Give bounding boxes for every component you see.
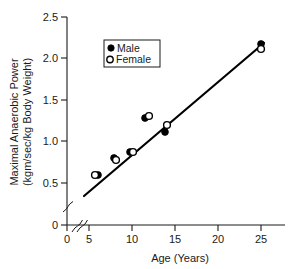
x-axis-break-icon-second bbox=[77, 220, 88, 232]
y-tick-label-1.0: 1.0 bbox=[43, 135, 58, 147]
legend-label-male: Male bbox=[117, 42, 140, 54]
x-axis-title: Age (Years) bbox=[151, 252, 209, 264]
data-point-female bbox=[258, 46, 265, 53]
x-axis-break-icon bbox=[72, 220, 83, 232]
x-tick-label-0: 0 bbox=[64, 233, 70, 245]
data-point-female bbox=[92, 172, 99, 179]
legend: Male Female bbox=[104, 40, 160, 67]
data-point-female bbox=[113, 157, 120, 164]
y-tick-label-0.5: 0.5 bbox=[43, 177, 58, 189]
legend-label-female: Female bbox=[116, 53, 151, 65]
scatter-plot: 2.5 2.0 1.5 1.0 0.5 0 0 5 10 15 20 25 bbox=[0, 0, 301, 269]
y-axis-ticks bbox=[61, 17, 67, 225]
chart-figure: 2.5 2.0 1.5 1.0 0.5 0 0 5 10 15 20 25 bbox=[0, 0, 301, 269]
x-tick-label-10: 10 bbox=[126, 233, 138, 245]
x-tick-label-5: 5 bbox=[86, 233, 92, 245]
x-tick-label-25: 25 bbox=[255, 233, 267, 245]
data-point-female bbox=[146, 113, 153, 120]
y-axis-title-line1: Maximal Anaerobic Power bbox=[8, 58, 20, 186]
x-tick-label-20: 20 bbox=[212, 233, 224, 245]
x-axis-ticks bbox=[67, 225, 261, 231]
data-point-female bbox=[130, 149, 137, 156]
legend-marker-female-icon bbox=[107, 56, 113, 62]
y-tick-label-0: 0 bbox=[52, 219, 58, 231]
x-tick-label-15: 15 bbox=[169, 233, 181, 245]
y-tick-label-2.0: 2.0 bbox=[43, 52, 58, 64]
data-point-male bbox=[162, 129, 169, 136]
y-axis-title-line2: (kgm/sec/kg Body Weight) bbox=[21, 58, 33, 186]
y-tick-label-2.5: 2.5 bbox=[43, 11, 58, 23]
y-axis-break-icon bbox=[63, 202, 73, 213]
data-point-female bbox=[164, 122, 171, 129]
legend-marker-male-icon bbox=[108, 45, 114, 51]
y-tick-label-1.5: 1.5 bbox=[43, 94, 58, 106]
